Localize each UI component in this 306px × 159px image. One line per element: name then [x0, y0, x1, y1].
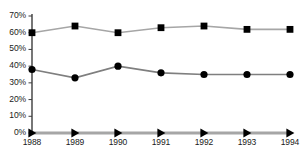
y-axis-tick-label: 10% — [0, 110, 26, 120]
y-axis-tick-label: 60% — [0, 27, 26, 37]
data-point-square — [72, 23, 79, 30]
x-axis-tick-label: 1988 — [15, 137, 49, 147]
data-point-circle — [243, 71, 250, 78]
data-point-circle — [28, 66, 35, 73]
x-axis-tick-label: 1993 — [230, 137, 264, 147]
y-axis-tick-label: 50% — [0, 43, 26, 53]
y-axis-tick-label: 30% — [0, 77, 26, 87]
data-point-circle — [114, 63, 121, 70]
data-point-square — [158, 24, 165, 31]
data-point-square — [244, 26, 251, 33]
y-axis-tick-label: 20% — [0, 94, 26, 104]
y-axis-tick-label: 70% — [0, 10, 26, 20]
line-chart: 0%10%20%30%40%50%60%70% 1988198919901991… — [0, 0, 306, 159]
x-axis-tick-label: 1992 — [187, 137, 221, 147]
data-point-square — [287, 26, 294, 33]
chart-series — [28, 23, 294, 138]
y-axis-tick-label: 0% — [0, 127, 26, 137]
data-point-circle — [71, 74, 78, 81]
data-point-square — [29, 29, 36, 36]
data-point-square — [201, 23, 208, 30]
chart-plot-area — [0, 0, 306, 159]
x-axis-tick-label: 1991 — [144, 137, 178, 147]
y-axis-tick-label: 40% — [0, 60, 26, 70]
data-point-circle — [200, 71, 207, 78]
data-point-circle — [157, 69, 164, 76]
x-axis-tick-label: 1994 — [273, 137, 306, 147]
data-point-square — [115, 29, 122, 36]
x-axis-tick-label: 1989 — [58, 137, 92, 147]
x-axis-tick-label: 1990 — [101, 137, 135, 147]
data-point-circle — [286, 71, 293, 78]
